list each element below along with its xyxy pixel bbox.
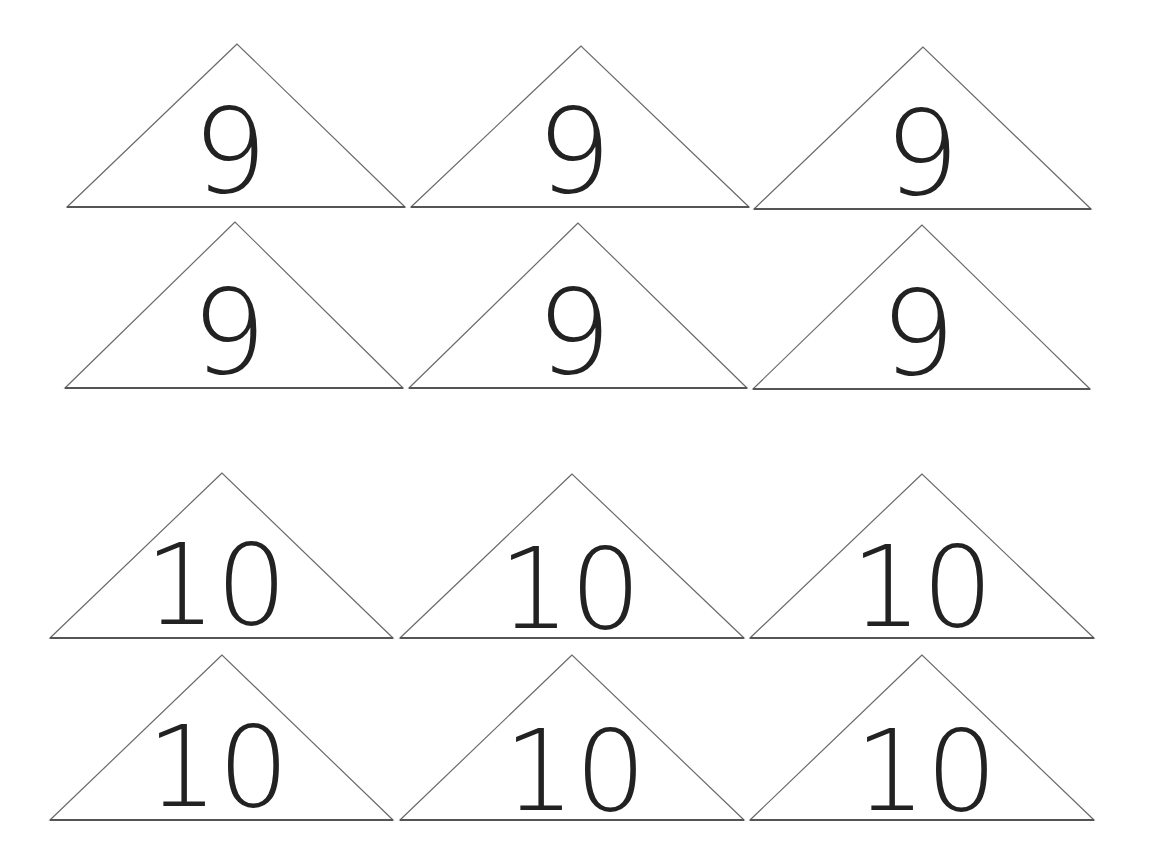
card-number: 9 <box>880 264 955 402</box>
card-number: 9 <box>192 82 267 220</box>
triangle-card: 10 <box>50 655 393 832</box>
card-number: 10 <box>145 520 288 650</box>
number-triangle-cards-sheet: 9 9 9 9 9 9 10 10 10 10 10 10 <box>0 0 1151 856</box>
card-number: 9 <box>536 82 611 220</box>
triangle-card: 9 <box>753 225 1090 402</box>
card-number: 10 <box>504 706 647 836</box>
triangle-card: 9 <box>411 46 749 220</box>
triangle-card: 9 <box>65 222 403 401</box>
card-number: 10 <box>499 524 642 654</box>
triangle-card: 10 <box>750 474 1094 652</box>
triangle-card: 9 <box>67 44 405 220</box>
card-number: 10 <box>851 522 994 652</box>
triangle-card: 10 <box>50 473 393 650</box>
triangle-card: 9 <box>409 223 747 401</box>
card-number: 9 <box>536 263 611 401</box>
card-number: 10 <box>147 702 290 832</box>
card-number: 10 <box>855 706 998 836</box>
triangle-card: 10 <box>400 655 744 836</box>
triangle-card: 10 <box>750 655 1094 836</box>
triangle-card: 10 <box>400 474 744 654</box>
card-number: 9 <box>884 84 959 222</box>
triangle-card: 9 <box>754 47 1091 222</box>
card-number: 9 <box>191 263 266 401</box>
